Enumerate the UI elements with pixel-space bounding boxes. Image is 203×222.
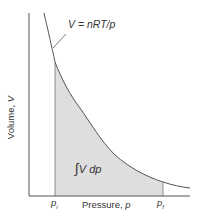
- tick-p-final: pf: [157, 197, 164, 210]
- equation-leader-line: [53, 34, 66, 48]
- tick-p-initial-sub: i: [56, 204, 57, 210]
- equation-label: V = nRT/p: [68, 18, 115, 30]
- plot-area: [0, 0, 203, 222]
- y-axis-label-text: Volume,: [5, 102, 16, 139]
- x-axis-label: Pressure, p: [82, 199, 131, 210]
- integral-text: V dp: [79, 163, 102, 175]
- tick-p-initial: pi: [51, 197, 58, 210]
- y-axis-label-var: V: [5, 96, 16, 102]
- x-axis-label-var: p: [125, 199, 130, 210]
- y-axis-label: Volume, V: [5, 88, 16, 148]
- tick-p-final-sub: f: [162, 204, 164, 210]
- pv-diagram: V = nRT/p ∫V dp Pressure, p Volume, V pi…: [0, 0, 203, 222]
- x-axis-label-text: Pressure,: [82, 199, 125, 210]
- integral-label: ∫V dp: [75, 160, 101, 176]
